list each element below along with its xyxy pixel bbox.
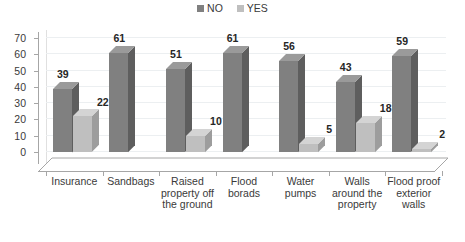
- legend-label-no: NO: [207, 3, 223, 14]
- bar-no: 39: [53, 89, 72, 153]
- y-tick-mark: [34, 54, 38, 55]
- bar-value-label: 51: [159, 49, 193, 60]
- bar-chart: NO YES 706050403020100 39226151106156543…: [0, 0, 465, 242]
- bar-yes: 22: [73, 116, 92, 152]
- x-axis-label: Sandbags: [103, 176, 160, 188]
- x-tick-mark: [46, 171, 47, 176]
- y-axis-line: [38, 32, 39, 164]
- x-tick-mark: [442, 171, 443, 176]
- y-tick-mark: [34, 152, 38, 153]
- y-tick-mark: [34, 38, 38, 39]
- bar-yes: 2: [412, 149, 431, 152]
- legend-entry-no: NO: [197, 3, 223, 14]
- x-tick-mark: [329, 171, 330, 176]
- y-tick-label: 60: [0, 49, 26, 60]
- y-tick-label: 20: [0, 114, 26, 125]
- bar-yes: 5: [299, 144, 318, 152]
- bar-value-label: 43: [329, 62, 363, 73]
- x-tick-mark: [216, 171, 217, 176]
- x-axis-label: Raised property off the ground: [159, 176, 216, 211]
- bar-value-label: 56: [272, 41, 306, 52]
- bar-value-label: 2: [425, 129, 459, 140]
- y-tick-mark: [34, 136, 38, 137]
- bar-group: 4318: [336, 38, 382, 152]
- legend-entry-yes: YES: [237, 3, 268, 14]
- y-tick-label: 30: [0, 98, 26, 109]
- legend-swatch-yes: [237, 5, 244, 12]
- bar-3d-faces: [73, 109, 99, 152]
- floor-surface: [38, 152, 448, 172]
- bar-3d-faces: [356, 116, 382, 152]
- bar-3d-faces: [412, 142, 438, 152]
- x-axis-labels: InsuranceSandbagsRaised property off the…: [38, 176, 448, 240]
- bar-3d-faces: [186, 129, 212, 152]
- bar-no: 61: [223, 53, 242, 152]
- x-tick-mark: [159, 171, 160, 176]
- bar-no: 59: [392, 56, 411, 152]
- x-axis-line: [38, 171, 434, 172]
- y-tick-label: 0: [0, 147, 26, 158]
- x-axis-label: Insurance: [46, 176, 103, 188]
- bar-no: 56: [279, 61, 298, 152]
- y-tick-mark: [34, 103, 38, 104]
- bar-no: 61: [109, 53, 128, 152]
- plot-area: 706050403020100 3922615110615654318592: [38, 30, 448, 172]
- bar-yes: 18: [356, 123, 375, 152]
- bar-value-label: 61: [216, 33, 250, 44]
- y-tick-mark: [34, 119, 38, 120]
- y-tick-label: 10: [0, 130, 26, 141]
- y-tick-label: 40: [0, 82, 26, 93]
- x-tick-mark: [103, 171, 104, 176]
- y-tick-mark: [34, 87, 38, 88]
- x-tick-mark: [385, 171, 386, 176]
- bar-3d-faces: [299, 137, 325, 152]
- bar-group: 3922: [53, 38, 99, 152]
- bar-no: 43: [336, 82, 355, 152]
- y-tick-mark: [34, 71, 38, 72]
- y-tick-label: 50: [0, 65, 26, 76]
- bar-3d-faces: [392, 49, 418, 152]
- x-tick-mark: [272, 171, 273, 176]
- bar-3d-faces: [223, 46, 249, 152]
- bar-3d-faces: [109, 46, 135, 152]
- bar-group: 61: [223, 38, 269, 152]
- bar-value-label: 59: [385, 36, 419, 47]
- legend-label-yes: YES: [247, 3, 268, 14]
- bar-value-label: 61: [102, 33, 136, 44]
- bar-group: 61: [109, 38, 155, 152]
- bar-yes: 10: [186, 136, 205, 152]
- x-axis-label: Flood proof exterior walls: [385, 176, 442, 211]
- chart-legend: NO YES: [0, 3, 465, 14]
- legend-swatch-no: [197, 5, 204, 12]
- bar-group: 565: [279, 38, 325, 152]
- bar-group: 5110: [166, 38, 212, 152]
- x-axis-label: Walls around the property: [329, 176, 386, 211]
- chart-floor: [38, 152, 448, 172]
- bar-group: 592: [392, 38, 438, 152]
- x-axis-label: Flood borads: [216, 176, 273, 199]
- y-tick-label: 70: [0, 33, 26, 44]
- x-axis-label: Water pumps: [272, 176, 329, 199]
- bar-value-label: 39: [46, 69, 80, 80]
- bar-no: 51: [166, 69, 185, 152]
